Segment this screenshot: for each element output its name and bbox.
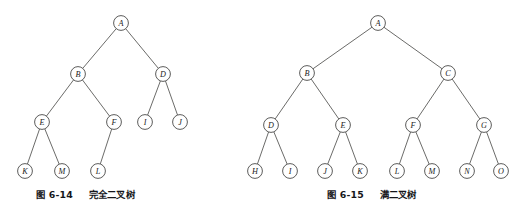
tree-node: A [371, 16, 386, 31]
node-label: E [339, 121, 345, 130]
caption-title-6-14: 完全二叉树 [89, 189, 135, 200]
tree-edges-figure-6-15 [257, 27, 498, 164]
tree-edge [100, 129, 111, 164]
tree-node: H [248, 164, 263, 179]
tree-edge [275, 79, 303, 119]
tree-edge [148, 81, 161, 115]
node-label: J [178, 118, 182, 127]
tree-edges-figure-6-14 [27, 29, 177, 164]
tree-node: A [114, 16, 129, 31]
tree-node: B [71, 67, 86, 82]
node-label: L [95, 167, 101, 176]
binary-tree-diagrams: ABDEFIJKMLABCDEFGHIJKLMNO [0, 0, 520, 207]
figure-caption-6-14: 图 6-14 完全二叉树 [36, 187, 135, 201]
node-label: L [394, 167, 400, 176]
tree-edge [384, 27, 442, 68]
tree-node: E [35, 115, 50, 130]
node-label: D [267, 121, 274, 130]
tree-edge [470, 132, 482, 164]
node-label: J [323, 167, 327, 176]
tree-edge [346, 132, 358, 164]
tree-node: I [138, 115, 153, 130]
caption-number-6-15: 图 6-15 [327, 189, 364, 200]
node-label: K [356, 167, 363, 176]
tree-edge [399, 132, 410, 164]
node-label: A [374, 19, 381, 28]
tree-node: M [55, 164, 70, 179]
node-label: H [251, 167, 259, 176]
tree-node: E [336, 118, 351, 133]
tree-node: J [318, 164, 333, 179]
tree-node: L [390, 164, 405, 179]
tree-node: D [156, 67, 171, 82]
node-label: C [445, 69, 451, 78]
tree-node: C [441, 66, 456, 81]
node-label: A [117, 19, 124, 28]
node-label: G [481, 121, 487, 130]
node-label: D [159, 70, 166, 79]
tree-edge [27, 129, 39, 164]
tree-node: F [107, 115, 122, 130]
node-label: F [110, 118, 117, 127]
tree-node: F [406, 118, 421, 133]
tree-edge [487, 132, 499, 164]
node-label: B [75, 70, 80, 79]
tree-node: M [425, 164, 440, 179]
tree-node: N [460, 164, 475, 179]
tree-nodes-figure-6-15: ABCDEFGHIJKLMNO [248, 16, 509, 179]
tree-node: B [300, 66, 315, 81]
tree-node: G [477, 118, 492, 133]
node-label: M [428, 167, 437, 176]
node-label: O [498, 167, 504, 176]
tree-edge [416, 132, 429, 164]
node-label: B [304, 69, 309, 78]
tree-edge [83, 29, 116, 69]
tree-node: O [494, 164, 509, 179]
tree-edge [126, 29, 159, 69]
tree-node: I [283, 164, 298, 179]
caption-title-6-15: 满二叉树 [380, 189, 417, 200]
tree-edge [417, 79, 444, 119]
tree-edge [311, 79, 339, 119]
node-label: M [58, 167, 67, 176]
tree-nodes-figure-6-14: ABDEFIJKML [18, 16, 188, 179]
node-label: K [21, 167, 28, 176]
tree-edge [82, 80, 109, 116]
figure-canvas: ABDEFIJKMLABCDEFGHIJKLMNO 图 6-14 完全二叉树 图… [0, 0, 520, 207]
tree-node: L [91, 164, 106, 179]
node-label: E [38, 118, 44, 127]
node-label: F [409, 121, 416, 130]
tree-edge [165, 81, 177, 115]
tree-edge [328, 132, 341, 164]
caption-number-6-14: 图 6-14 [36, 189, 73, 200]
tree-node: K [18, 164, 33, 179]
tree-edge [313, 27, 372, 68]
tree-edge [45, 129, 59, 164]
tree-node: J [173, 115, 188, 130]
tree-edge [257, 132, 268, 164]
tree-edge [452, 79, 480, 119]
tree-edge [274, 132, 287, 164]
node-label: N [463, 167, 470, 176]
tree-edge [46, 80, 73, 116]
tree-node: D [264, 118, 279, 133]
figure-caption-6-15: 图 6-15 满二叉树 [327, 187, 417, 201]
tree-node: K [353, 164, 368, 179]
